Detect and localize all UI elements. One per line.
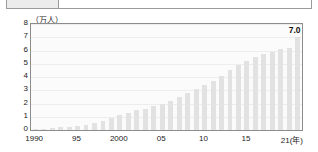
y-axis-tick-label: 1: [16, 112, 28, 120]
y-axis-tick-label: 0: [16, 125, 28, 133]
bar: [84, 125, 89, 130]
x-axis-tick-label: 95: [72, 134, 81, 143]
x-axis-tick-label: 2000: [110, 134, 128, 143]
x-axis-tick-label: 05: [157, 134, 166, 143]
x-axis-tick-label: 15: [241, 134, 250, 143]
bar: [160, 104, 165, 131]
table-cell-header: [7, 0, 59, 8]
bar: [134, 110, 139, 130]
bar-chart: （万人） 876543210 199095200005101521(年) 7.0: [0, 14, 318, 152]
bar: [228, 70, 233, 130]
bar: [33, 129, 38, 130]
plot-area: [30, 23, 303, 131]
bar: [202, 85, 207, 130]
y-axis-labels: 876543210: [14, 23, 28, 131]
y-axis-tick-label: 2: [16, 99, 28, 107]
cut-off-table-row: [0, 0, 318, 11]
bar: [67, 127, 72, 130]
y-axis-tick-label: 5: [16, 59, 28, 67]
bar: [58, 127, 63, 130]
y-axis-tick-label: 6: [16, 46, 28, 54]
bar: [126, 113, 131, 130]
bar: [41, 129, 46, 130]
bar: [185, 93, 190, 130]
bar: [75, 126, 80, 130]
bar: [261, 54, 266, 130]
gridline: [31, 24, 302, 25]
x-axis-tick-label: 21(年): [281, 134, 303, 145]
bar: [151, 106, 156, 130]
bar: [109, 118, 114, 130]
data-label-2021: 7.0: [289, 25, 301, 35]
bar: [117, 115, 122, 130]
y-axis-tick-label: 3: [16, 85, 28, 93]
x-axis-tick-label: 1990: [25, 134, 43, 143]
bar: [50, 128, 55, 130]
bar: [219, 76, 224, 130]
bar: [168, 101, 173, 130]
bar: [194, 89, 199, 130]
bar: [287, 48, 292, 130]
x-axis-tick-label: 10: [199, 134, 208, 143]
bar: [253, 57, 258, 130]
gridline: [31, 37, 302, 38]
y-axis-tick-label: 4: [16, 72, 28, 80]
bar: [101, 121, 106, 130]
bar: [278, 49, 283, 130]
table-row: [6, 0, 312, 9]
table-cell-text: [59, 0, 311, 8]
bar: [92, 123, 97, 130]
bar: [295, 37, 300, 130]
bar: [143, 109, 148, 130]
gridline: [31, 51, 302, 52]
y-axis-tick-label: 7: [16, 32, 28, 40]
bar: [177, 97, 182, 130]
y-axis-tick-label: 8: [16, 19, 28, 27]
bar: [236, 65, 241, 130]
bar: [211, 81, 216, 130]
bar: [270, 52, 275, 130]
bar: [244, 61, 249, 130]
chart-page: （万人） 876543210 199095200005101521(年) 7.0: [0, 0, 318, 152]
